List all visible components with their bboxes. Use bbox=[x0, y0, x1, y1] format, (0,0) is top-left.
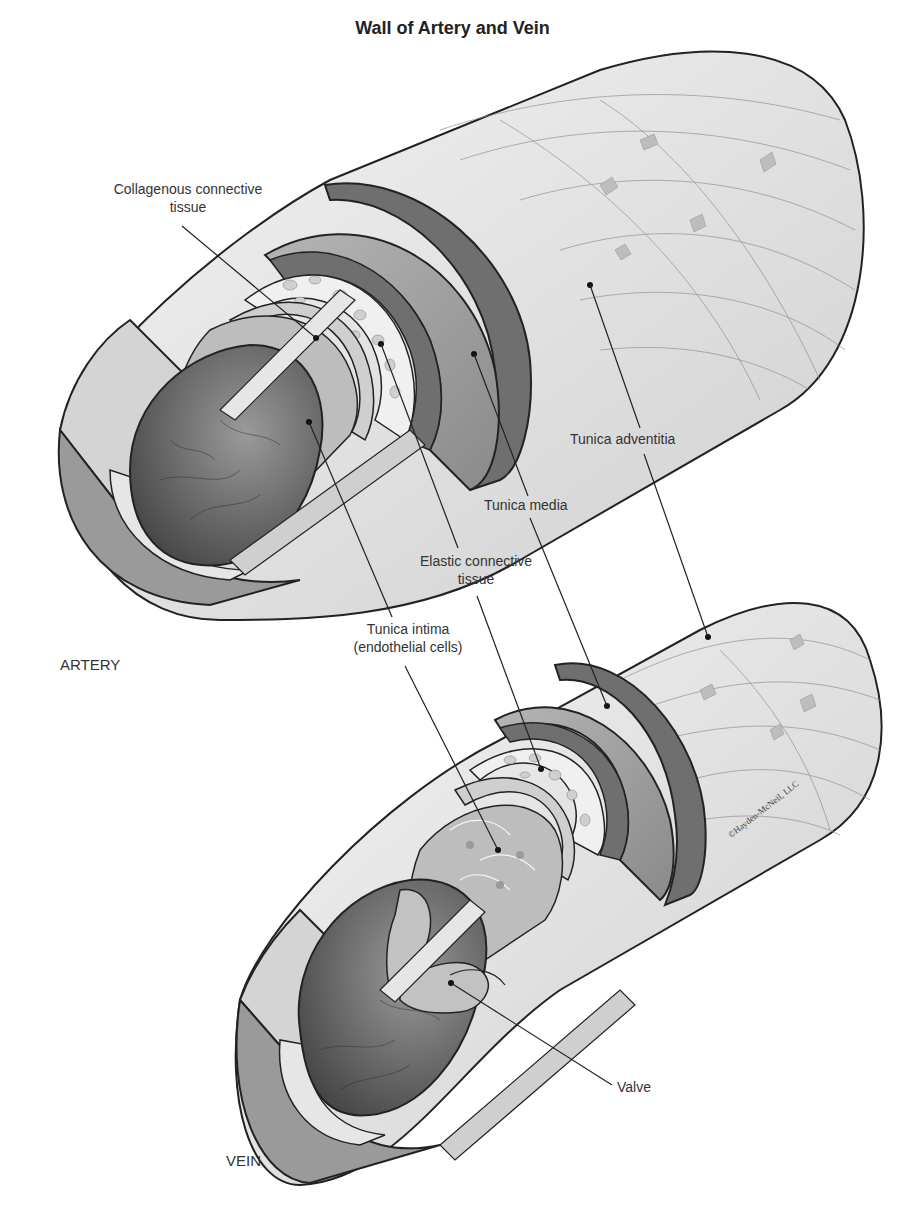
artery-illustration bbox=[59, 52, 864, 620]
label-tunica-media: Tunica media bbox=[484, 496, 568, 514]
vein-illustration bbox=[236, 603, 882, 1185]
label-elastic-connective-tissue: Elastic connective tissue bbox=[398, 552, 554, 588]
label-valve: Valve bbox=[617, 1078, 651, 1096]
label-vein: VEIN bbox=[226, 1152, 261, 1170]
label-tunica-intima: Tunica intima (endothelial cells) bbox=[338, 620, 478, 656]
label-collagenous-connective-tissue: Collagenous connective tissue bbox=[68, 180, 308, 216]
label-artery: ARTERY bbox=[60, 656, 120, 674]
label-tunica-adventitia: Tunica adventitia bbox=[570, 430, 675, 448]
